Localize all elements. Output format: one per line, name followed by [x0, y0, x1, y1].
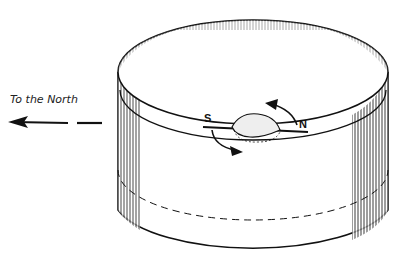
south-pole-label: S: [204, 112, 211, 124]
direction-label: To the North: [10, 93, 78, 106]
north-pole-label: N: [299, 118, 307, 130]
cylinder-drawing: [0, 0, 394, 277]
